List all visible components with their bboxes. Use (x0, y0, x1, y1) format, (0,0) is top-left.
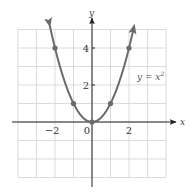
y-axis-label: y (88, 8, 95, 18)
x-axis-label: x (180, 117, 185, 127)
data-point (71, 101, 76, 106)
y-tick-label-4: 4 (83, 43, 89, 54)
equation-base: y = x (136, 72, 160, 82)
parabola-chart: −2 0 2 4 2 x y y = x2 (0, 0, 190, 192)
data-point (126, 45, 131, 50)
x-tick-label-2: 2 (126, 125, 132, 136)
y-tick-label-2: 2 (83, 80, 89, 91)
equation-exponent: 2 (159, 70, 164, 77)
x-tick-label-0: 0 (84, 125, 90, 136)
data-point (108, 101, 113, 106)
data-point (52, 45, 57, 50)
equation-label: y = x2 (136, 70, 164, 82)
data-point (89, 119, 94, 124)
x-tick-label-neg2: −2 (45, 125, 60, 136)
